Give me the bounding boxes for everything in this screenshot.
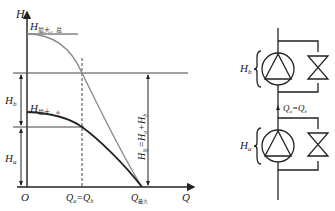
svg-text:H总=Ha+Hb: H总=Ha+Hb [136, 114, 148, 161]
x-axis-label: Q [182, 191, 190, 203]
bypass-valve-b-icon [308, 56, 328, 79]
q-max-label: Q最大 [131, 192, 148, 205]
pump-series-diagram: H Q O H最大，总 H最大，a Hb Ha Qa=Qb Q最大 H总=Ha+… [0, 0, 335, 211]
series-pump-schematic [254, 28, 328, 200]
schematic-ha-label: Ha [239, 139, 252, 153]
y-axis-label: H [15, 7, 26, 21]
single-pump-curve [27, 112, 142, 187]
hb-brace [254, 51, 261, 87]
qa-eq-qb-label: Qa=Qb [66, 192, 93, 204]
ha-brace [254, 128, 261, 164]
schematic-flow-label: Qa=Qb [283, 103, 308, 114]
h-total-equation: H总=Ha+Hb [136, 114, 148, 161]
bypass-valve-a-icon [308, 133, 328, 156]
h-max-a-label: H最大，a [29, 102, 60, 116]
origin-label: O [21, 191, 29, 203]
h-max-total-label: H最大，总 [29, 20, 62, 34]
ha-label: Ha [4, 152, 17, 166]
pump-a-icon [262, 130, 294, 162]
schematic-hb-label: Hb [239, 62, 252, 76]
flow-arrow-icon [276, 105, 280, 110]
pump-b-icon [262, 53, 294, 85]
hb-label: Hb [4, 94, 17, 108]
